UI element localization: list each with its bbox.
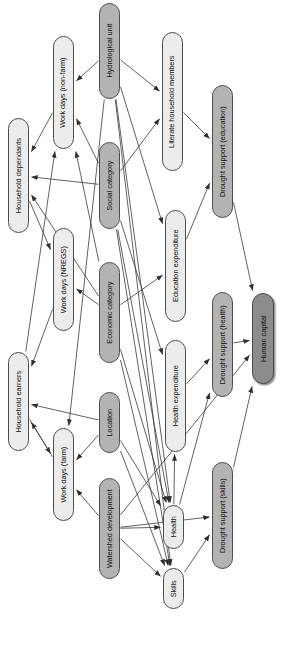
node-household_earners[interactable]: Household earners [8, 352, 29, 451]
node-label: Human capital [259, 315, 266, 362]
node-label: Economic category [106, 282, 113, 344]
node-work_days_nregs[interactable]: Work days (NREGS) [53, 228, 74, 331]
node-drought_support_skills[interactable]: Drought support (skills) [212, 462, 233, 569]
node-label: Watershed development [106, 489, 113, 568]
node-label: Work days (non-farm) [60, 57, 67, 127]
node-label: Literate household members [169, 55, 176, 147]
node-household_dependants[interactable]: Household dependants [8, 118, 29, 233]
node-label: Health expenditure [172, 365, 179, 426]
node-location[interactable]: Location [99, 392, 120, 453]
node-human_capital[interactable]: Human capital [252, 293, 274, 384]
node-watershed_development[interactable]: Watershed development [99, 478, 120, 579]
node-label: Skills [170, 580, 177, 597]
node-label: Work days (NREGS) [60, 246, 67, 313]
node-label: Drought support (skills) [219, 478, 226, 553]
node-label: Drought support (education) [219, 106, 226, 197]
node-education_expenditure[interactable]: Education expenditure [165, 210, 186, 322]
node-label: Location [106, 409, 113, 437]
node-label: Household earners [15, 371, 22, 433]
node-label: Household dependants [15, 138, 22, 213]
node-label: Hydrological unit [106, 24, 113, 78]
bayesian-network-diagram: Hydrological unitWork days (non-farm)Lit… [0, 0, 283, 656]
node-work_days_non_farm[interactable]: Work days (non-farm) [53, 36, 74, 149]
node-skills[interactable]: Skills [163, 568, 184, 609]
node-label: Education expenditure [172, 230, 179, 303]
node-health[interactable]: Health [163, 505, 184, 549]
node-social_category[interactable]: Social category [99, 142, 120, 229]
node-literate_household_members[interactable]: Literate household members [162, 32, 183, 171]
node-hydrological_unit[interactable]: Hydrological unit [99, 3, 120, 99]
node-drought_support_health[interactable]: Drought support (health) [212, 292, 233, 397]
node-health_expenditure[interactable]: Health expenditure [165, 340, 186, 452]
node-work_days_farm[interactable]: Work days (farm) [53, 428, 74, 521]
node-label: Work days (farm) [60, 447, 67, 503]
node-drought_support_education[interactable]: Drought support (education) [212, 85, 233, 218]
node-label: Drought support (health) [219, 305, 226, 384]
node-economic_category[interactable]: Economic category [99, 262, 120, 363]
node-label: Social category [106, 161, 113, 211]
caption-strip [273, 392, 282, 654]
node-layer: Hydrological unitWork days (non-farm)Lit… [0, 0, 283, 656]
node-label: Health [170, 516, 177, 537]
